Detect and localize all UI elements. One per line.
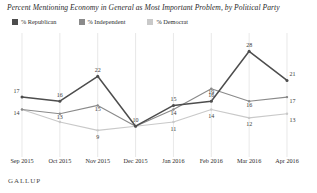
svg-text:16: 16 [246,102,252,108]
footer-brand: GALLUP [8,177,41,185]
legend-swatch-democrat [147,19,153,25]
svg-text:15: 15 [95,106,101,112]
x-tick-label: Dec 2015 [124,157,148,165]
legend-label-republican: % Republican [21,18,57,25]
x-tick-label: Sep 2015 [10,157,33,165]
legend-label-independent: % Independent [88,18,126,25]
legend-item-republican[interactable]: % Republican [12,18,57,25]
svg-text:10: 10 [133,117,139,123]
svg-text:19: 19 [208,89,214,95]
legend-item-democrat[interactable]: % Democrat [147,18,188,25]
svg-text:9: 9 [96,134,99,140]
svg-text:13: 13 [57,114,63,120]
legend-label-democrat: % Democrat [156,18,188,25]
x-tick-label: Mar 2016 [237,157,261,165]
svg-text:14: 14 [208,113,214,119]
svg-text:16: 16 [57,92,63,98]
legend-item-independent[interactable]: % Independent [79,18,126,25]
svg-text:15: 15 [170,96,176,102]
x-tick-label: Oct 2015 [48,157,71,165]
page-title: Percent Mentioning Economy in General as… [7,3,312,12]
x-tick-label: Feb 2016 [200,157,223,165]
x-tick-label: Nov 2015 [85,157,110,165]
svg-text:11: 11 [171,126,177,132]
legend-swatch-independent [79,19,85,25]
legend-swatch-republican [12,19,18,25]
chart-card: Percent Mentioning Economy in General as… [0,0,317,193]
svg-text:12: 12 [246,121,252,127]
x-axis-tick-labels: Sep 2015Oct 2015Nov 2015Dec 2015Jan 2016… [0,157,317,169]
chart-legend: % Republican % Independent % Democrat [12,18,210,25]
svg-text:22: 22 [95,67,101,73]
svg-text:13: 13 [290,117,296,123]
x-tick-label: Jan 2016 [162,157,184,165]
svg-text:17: 17 [290,98,296,104]
line-chart-svg: 171622101516282114131514191617911141213 [0,33,317,157]
x-tick-label: Apr 2016 [275,157,299,165]
chart-data-labels: 171622101516282114131514191617911141213 [14,42,296,140]
svg-text:17: 17 [14,88,20,94]
svg-text:14: 14 [14,110,20,116]
svg-text:14: 14 [170,110,176,116]
svg-text:21: 21 [290,71,296,77]
chart-plot-area: 171622101516282114131514191617911141213 [0,33,317,157]
svg-text:28: 28 [246,42,252,48]
